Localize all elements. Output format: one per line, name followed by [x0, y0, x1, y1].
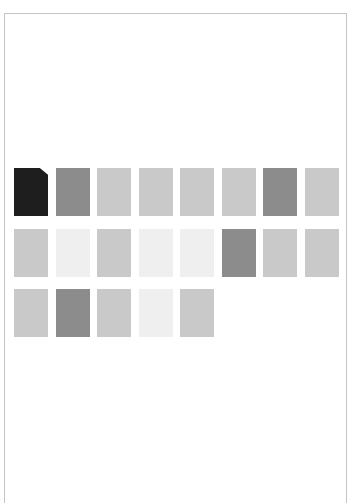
document-tile[interactable] — [139, 168, 173, 216]
document-tile[interactable] — [56, 168, 90, 216]
document-tile[interactable] — [14, 289, 48, 337]
document-tile-folded[interactable] — [14, 168, 48, 216]
document-tile[interactable] — [305, 168, 339, 216]
document-tile[interactable] — [222, 229, 256, 277]
document-tile[interactable] — [97, 229, 131, 277]
document-tile[interactable] — [56, 289, 90, 337]
document-tile[interactable] — [139, 229, 173, 277]
document-tile[interactable] — [97, 168, 131, 216]
document-tile[interactable] — [180, 168, 214, 216]
document-tile[interactable] — [305, 229, 339, 277]
document-tile[interactable] — [180, 229, 214, 277]
document-tile[interactable] — [222, 168, 256, 216]
document-tile[interactable] — [263, 229, 297, 277]
document-tile[interactable] — [139, 289, 173, 337]
document-tile[interactable] — [180, 289, 214, 337]
tile-grid — [14, 168, 339, 337]
document-tile[interactable] — [56, 229, 90, 277]
document-tile[interactable] — [263, 168, 297, 216]
document-tile[interactable] — [14, 229, 48, 277]
document-tile[interactable] — [97, 289, 131, 337]
